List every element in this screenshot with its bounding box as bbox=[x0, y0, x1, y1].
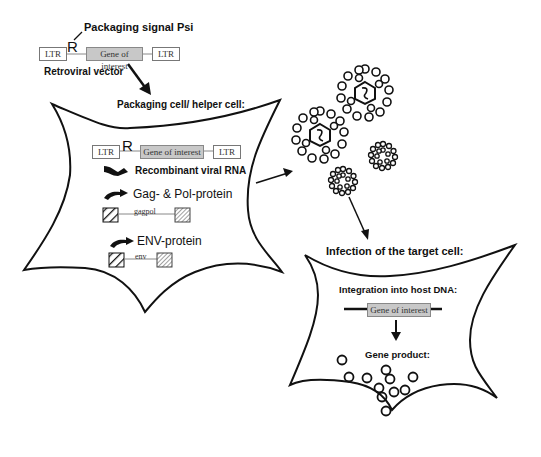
gagpol-gene-label: gagpol bbox=[134, 207, 156, 216]
ltr-right-box: LTR bbox=[152, 47, 180, 61]
recombinant-rna-label: Recombinant viral RNA bbox=[135, 165, 246, 176]
virus-particle-2 bbox=[292, 107, 348, 163]
cell-ltr-left-box: LTR bbox=[92, 145, 120, 159]
env-ltr-right bbox=[157, 253, 172, 267]
arrow-virus-to-target bbox=[349, 197, 366, 235]
gene-of-interest-box: Gene of interest bbox=[86, 47, 143, 61]
psi-symbol-cell: R bbox=[122, 137, 133, 154]
retroviral-vector-label: Retroviral vector bbox=[44, 66, 123, 77]
gagpol-ltr-left bbox=[103, 208, 118, 222]
curved-arrow-icon-env bbox=[110, 237, 134, 248]
virus-particle-3 bbox=[369, 142, 398, 171]
env-protein-label: ENV-protein bbox=[137, 234, 202, 248]
gagpol-ltr-right bbox=[175, 208, 190, 222]
integration-label: Integration into host DNA: bbox=[339, 284, 457, 295]
packaging-cell-outline bbox=[24, 100, 282, 312]
gagpol-protein-label: Gag- & Pol-protein bbox=[133, 187, 232, 201]
curved-arrow-icon-rna bbox=[104, 166, 128, 176]
target-cell-title: Infection of the target cell: bbox=[326, 245, 464, 257]
cell-gene-of-interest-box: Gene of interest bbox=[140, 145, 204, 159]
host-gene-of-interest-box: Gene of interest bbox=[367, 303, 431, 317]
gene-product-label: Gene product: bbox=[365, 349, 430, 360]
cell-ltr-right-box: LTR bbox=[213, 145, 241, 159]
arrow-cell-to-virus bbox=[256, 173, 288, 183]
virus-particle-4 bbox=[329, 167, 358, 196]
gene-product-particles bbox=[338, 356, 418, 416]
env-gene-label: env bbox=[135, 252, 147, 261]
curved-arrow-icon-gagpol bbox=[104, 189, 128, 200]
packaging-signal-label: Packaging signal Psi bbox=[84, 21, 193, 33]
packaging-cell-title: Packaging cell/ helper cell: bbox=[117, 99, 245, 110]
psi-symbol: R bbox=[67, 38, 78, 55]
env-ltr-left bbox=[109, 253, 124, 267]
virus-particle-1 bbox=[337, 65, 393, 121]
ltr-left-box: LTR bbox=[39, 47, 67, 61]
